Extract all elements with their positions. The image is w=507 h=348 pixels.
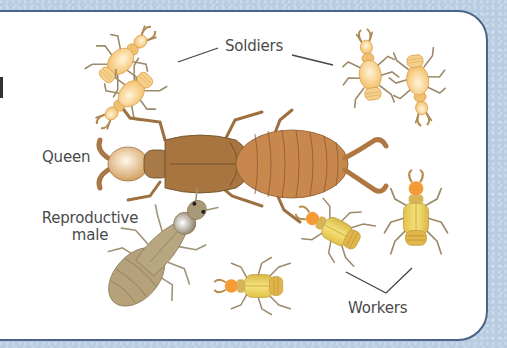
reproductive-male bbox=[81, 169, 240, 332]
worker-2 bbox=[385, 170, 448, 254]
label-reproductive-line2: male bbox=[36, 227, 144, 244]
queen bbox=[99, 110, 386, 222]
worker-1 bbox=[284, 185, 378, 271]
label-reproductive-male: Reproductive male bbox=[36, 210, 144, 244]
label-workers: Workers bbox=[348, 300, 407, 317]
label-reproductive-line1: Reproductive bbox=[36, 210, 144, 227]
worker-3 bbox=[214, 258, 290, 315]
label-soldiers: Soldiers bbox=[225, 38, 283, 55]
soldier-3 bbox=[336, 26, 402, 109]
label-queen: Queen bbox=[42, 149, 90, 166]
soldier-4 bbox=[386, 46, 452, 129]
